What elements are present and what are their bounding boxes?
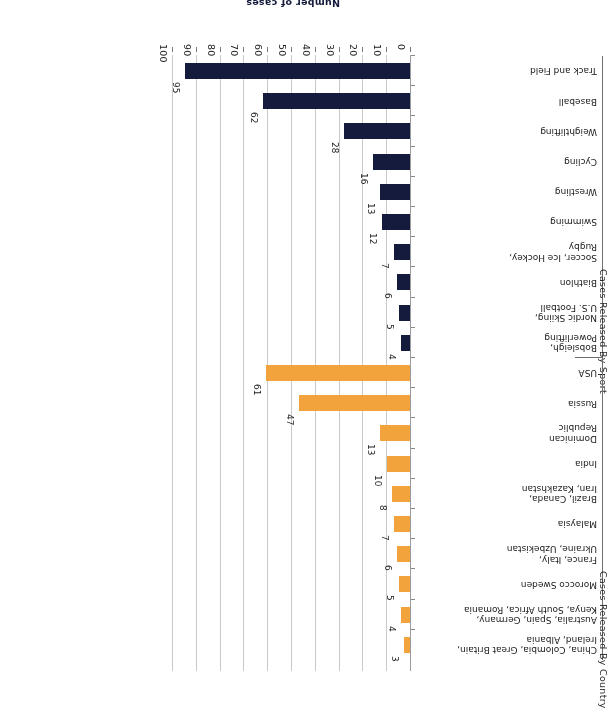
axis-tick-label: 90: [182, 44, 193, 57]
axis-tick: [172, 47, 173, 52]
axis-tick-label: 20: [348, 44, 359, 57]
axis-tick-label: 70: [229, 44, 240, 57]
axis-tick-label: 60: [253, 44, 264, 57]
bar: [263, 93, 410, 109]
axis-tick: [291, 47, 292, 52]
category-label: USA: [419, 368, 597, 379]
axis-tick-label: 80: [206, 44, 217, 57]
category-label: Track and Field: [419, 66, 597, 77]
axis-tick: [196, 47, 197, 52]
bar: [404, 637, 410, 653]
bar: [397, 546, 410, 562]
bar-value-label: 61: [252, 384, 262, 395]
axis-tick-label: 100: [158, 44, 169, 63]
category-label: Wrestling: [419, 187, 597, 198]
category-label: Malaysia: [419, 519, 597, 530]
bar-value-label: 7: [380, 535, 390, 541]
plot-area: Number of cases 010203040506070809010095…: [173, 56, 411, 660]
category-tick: [411, 629, 415, 630]
bar: [394, 244, 410, 260]
bar: [344, 124, 410, 140]
bar-value-label: 5: [385, 324, 395, 330]
category-label: China, Colombia, Great Britain, Ireland,…: [419, 634, 597, 655]
group-title: Cases Released By Sport: [598, 269, 609, 394]
category-label: Baseball: [419, 96, 597, 107]
bar: [392, 486, 410, 502]
bar-value-label: 28: [330, 143, 340, 154]
gridline: [243, 55, 244, 671]
category-tick: [411, 327, 415, 328]
gridline: [315, 55, 316, 671]
category-label: Nordic Skiing, U.S. Football: [419, 302, 597, 323]
category-tick: [411, 266, 415, 267]
bar: [387, 456, 410, 472]
category-label: Soccer, Ice Hockey, Rugby: [419, 242, 597, 263]
axis-tick: [410, 47, 411, 52]
category-tick: [411, 417, 415, 418]
axis-tick: [267, 47, 268, 52]
category-tick: [411, 236, 415, 237]
bar-value-label: 3: [390, 656, 400, 662]
bar-value-label: 10: [373, 475, 383, 486]
bar-value-label: 4: [387, 354, 397, 360]
axis-tick-label: 30: [325, 44, 336, 57]
category-label: Brazil, Canada, Iran, Kazakhstan: [419, 483, 597, 504]
bar: [401, 607, 410, 623]
category-tick: [411, 387, 415, 388]
gridline: [196, 55, 197, 671]
category-label: Morocco Sweden: [419, 579, 597, 590]
gridline: [386, 55, 387, 671]
category-tick: [411, 448, 415, 449]
category-tick: [411, 357, 415, 358]
category-tick: [411, 115, 415, 116]
bar: [399, 305, 410, 321]
axis-tick-label: 0: [396, 44, 407, 50]
gridline: [172, 55, 173, 671]
category-label: Weightlifting: [419, 126, 597, 137]
gridline: [362, 55, 363, 671]
bar-value-label: 95: [171, 82, 181, 93]
bar-value-label: 4: [387, 626, 397, 632]
axis-tick: [362, 47, 363, 52]
group-separator: [575, 357, 603, 358]
bar-value-label: 62: [249, 112, 259, 123]
axis-tick: [243, 47, 244, 52]
gridline: [291, 55, 292, 671]
category-tick: [411, 206, 415, 207]
category-tick: [411, 568, 415, 569]
bar: [399, 577, 410, 593]
cropped-edge-text: [2, 0, 16, 674]
axis-tick: [315, 47, 316, 52]
bar-value-label: 13: [366, 203, 376, 214]
axis-tick-label: 10: [372, 44, 383, 57]
bar: [299, 395, 410, 411]
category-label: Biathlon: [419, 277, 597, 288]
axis-tick: [386, 47, 387, 52]
gridline: [220, 55, 221, 671]
axis-tick-label: 50: [277, 44, 288, 57]
gridline: [267, 55, 268, 671]
bar-value-label: 7: [380, 263, 390, 269]
value-axis-title: Number of cases: [174, 0, 412, 9]
category-tick: [411, 85, 415, 86]
bar-value-label: 13: [366, 445, 376, 456]
category-label: Russia: [419, 398, 597, 409]
category-label: Australia, Spain, Germany, Kenya, South …: [419, 604, 597, 625]
bar-value-label: 47: [285, 414, 295, 425]
category-tick: [411, 508, 415, 509]
bar-value-label: 8: [378, 505, 388, 511]
axis-tick-label: 40: [301, 44, 312, 57]
bar: [185, 63, 410, 79]
bar-value-label: 16: [359, 173, 369, 184]
bar-value-label: 5: [385, 596, 395, 602]
bar: [373, 154, 410, 170]
bar: [394, 516, 410, 532]
category-tick: [411, 297, 415, 298]
category-tick: [411, 538, 415, 539]
category-tick: [411, 55, 415, 56]
category-tick: [411, 146, 415, 147]
bar: [382, 214, 410, 230]
bar: [380, 184, 410, 200]
group-title: Cases Released By Country: [598, 571, 609, 709]
